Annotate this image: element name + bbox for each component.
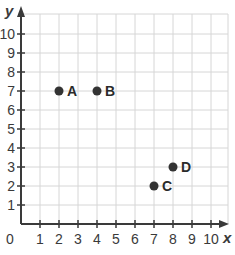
x-tick-label: 2 — [55, 231, 63, 247]
point-marker-icon — [169, 163, 178, 172]
y-axis-label: y — [4, 2, 14, 19]
y-tick-label: 2 — [7, 178, 15, 194]
y-tick-label: 6 — [7, 102, 15, 118]
y-tick-label: 4 — [7, 140, 15, 156]
axis-ticks: 1234567891012345678910 — [0, 26, 219, 247]
x-tick-label: 10 — [203, 231, 219, 247]
x-tick-label: 5 — [112, 231, 120, 247]
point-marker-icon — [150, 182, 159, 191]
scatter-plot: xy0 1234567891012345678910 ABCD — [0, 0, 235, 255]
x-tick-label: 7 — [150, 231, 158, 247]
x-tick-label: 6 — [131, 231, 139, 247]
x-tick-label: 4 — [93, 231, 101, 247]
data-points: ABCD — [55, 83, 192, 194]
point-label: C — [162, 178, 172, 194]
point-marker-icon — [93, 87, 102, 96]
y-tick-label: 3 — [7, 159, 15, 175]
coordinate-plane: xy0 1234567891012345678910 ABCD — [0, 0, 235, 255]
point-label: A — [67, 83, 77, 99]
y-tick-label: 10 — [0, 26, 15, 42]
x-tick-label: 1 — [36, 231, 44, 247]
y-tick-label: 8 — [7, 64, 15, 80]
point-marker-icon — [55, 87, 64, 96]
y-tick-label: 9 — [7, 45, 15, 61]
origin-label: 0 — [6, 231, 14, 247]
y-tick-label: 7 — [7, 83, 15, 99]
x-tick-label: 8 — [169, 231, 177, 247]
y-tick-label: 5 — [7, 121, 15, 137]
point-label: D — [181, 159, 191, 175]
y-tick-label: 1 — [7, 197, 15, 213]
axes: xy0 — [4, 2, 232, 247]
y-axis-arrow-icon — [17, 6, 25, 17]
x-tick-label: 3 — [74, 231, 82, 247]
point-label: B — [105, 83, 115, 99]
x-tick-label: 9 — [188, 231, 196, 247]
grid-lines — [21, 14, 228, 224]
x-axis-label: x — [222, 229, 232, 246]
